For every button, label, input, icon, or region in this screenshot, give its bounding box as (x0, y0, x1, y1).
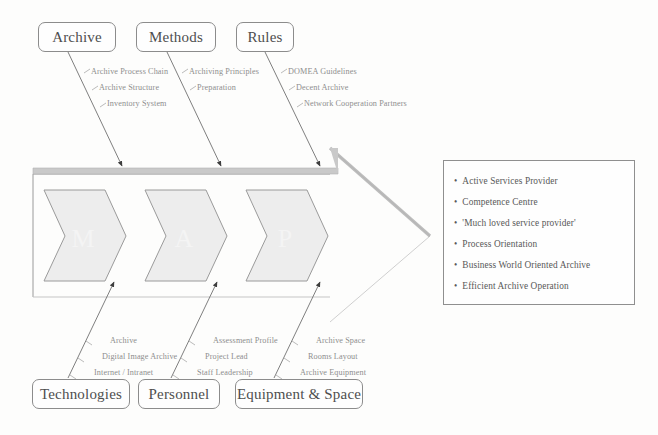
sub-item: Archiving Principles (189, 64, 259, 80)
result-item: Business World Oriented Archive (454, 255, 626, 276)
sub-items-methods: Archiving Principles Preparation (189, 64, 259, 96)
sub-items-personnel: Assessment Profile Project Lead Staff Le… (197, 333, 278, 381)
sub-item: Archive (110, 333, 177, 349)
result-item: Efficient Archive Operation (454, 276, 626, 297)
chevron-letter-1: M (71, 224, 94, 253)
sub-items-technologies: Archive Digital Image Archive Internet /… (94, 333, 177, 381)
category-label-archive: Archive (52, 29, 102, 46)
sub-item: Archive Process Chain (91, 64, 168, 80)
sub-item: DOMEA Guidelines (288, 64, 407, 80)
result-item: Active Services Provider (454, 171, 626, 192)
category-label-technologies: Technologies (40, 386, 122, 403)
result-item: Process Orientation (454, 234, 626, 255)
sub-item: Rooms Layout (308, 349, 366, 365)
chevron-letter-2: A (175, 224, 194, 253)
category-box-equipment-space[interactable]: Equipment & Space (235, 379, 363, 409)
category-box-archive[interactable]: Archive (38, 22, 116, 52)
sub-item: Assessment Profile (213, 333, 278, 349)
chevron-group: M A P (44, 190, 328, 281)
sub-items-archive: Archive Process Chain Archive Structure … (91, 64, 168, 112)
sub-item: Archive Structure (99, 80, 168, 96)
results-list: Active Services Provider Competence Cent… (454, 171, 626, 297)
category-box-rules[interactable]: Rules (236, 22, 294, 52)
category-label-equipment-space: Equipment & Space (237, 386, 361, 403)
sub-items-rules: DOMEA Guidelines Decent Archive Network … (288, 64, 407, 112)
sub-item: Digital Image Archive (102, 349, 177, 365)
sub-item: Decent Archive (296, 80, 407, 96)
result-item: Competence Centre (454, 192, 626, 213)
category-box-technologies[interactable]: Technologies (32, 379, 130, 409)
sub-item: Network Cooperation Partners (304, 96, 407, 112)
category-label-personnel: Personnel (149, 386, 210, 403)
chevron-letter-3: P (278, 224, 292, 253)
sub-item: Project Lead (205, 349, 278, 365)
category-label-methods: Methods (149, 29, 203, 46)
category-label-rules: Rules (247, 29, 282, 46)
category-box-methods[interactable]: Methods (136, 22, 216, 52)
sub-item: Inventory System (107, 96, 168, 112)
sub-item: Preparation (197, 80, 259, 96)
sub-items-equipment: Archive Space Rooms Layout Archive Equip… (300, 333, 366, 381)
category-box-personnel[interactable]: Personnel (138, 379, 220, 409)
diagram-canvas: M A P (0, 0, 658, 435)
result-item: 'Much loved service provider' (454, 213, 626, 234)
sub-item: Archive Space (316, 333, 366, 349)
results-box: Active Services Provider Competence Cent… (443, 160, 635, 305)
